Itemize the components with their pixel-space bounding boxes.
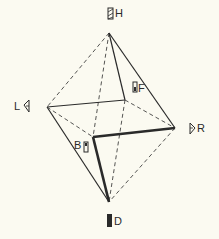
vertex-label-D: D [114, 216, 122, 227]
edge-R-D [109, 128, 175, 202]
octahedron-diagram [0, 0, 219, 239]
left-triangle-icon [24, 100, 29, 112]
right-triangle-icon [190, 123, 195, 134]
edge-B-D [93, 137, 109, 202]
edge-L-F [47, 100, 125, 107]
vertex-label-H: H [115, 8, 123, 19]
vertex-label-F: F [138, 83, 145, 94]
vertex-label-R: R [197, 123, 205, 134]
vertex-label-L: L [14, 101, 20, 112]
front-block-icon [133, 82, 137, 92]
edge-H-B [93, 33, 109, 137]
edge-L-B [47, 107, 93, 137]
solid-block-icon [107, 214, 112, 227]
edge-H-F [109, 33, 125, 100]
hatched-block-icon [108, 8, 113, 19]
edge-L-D [47, 107, 109, 202]
back-block-icon [84, 142, 88, 152]
edge-B-R [93, 128, 175, 137]
vertex-label-B: B [74, 140, 81, 151]
edge-H-R [109, 33, 175, 128]
edge-F-R [125, 100, 175, 128]
